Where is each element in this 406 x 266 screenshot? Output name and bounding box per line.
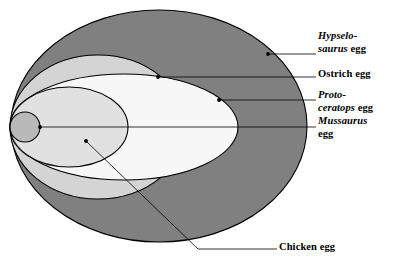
anchor-dot-protoceratops [217, 98, 221, 102]
egg-shape-mussaurus [10, 112, 40, 142]
label-protoceratops-egg: Proto- ceratops egg [318, 89, 373, 114]
anchor-dot-hypselosaurus [266, 52, 270, 56]
figure-canvas: Hypselo- saurus egg Ostrich egg Proto- c… [0, 0, 406, 266]
label-hypselosaurus-line2: saurus [318, 43, 348, 54]
label-protoceratops-suffix: egg [355, 102, 373, 113]
label-ostrich-line1: Ostrich egg [318, 68, 371, 79]
label-hypselosaurus-egg: Hypselo- saurus egg [318, 30, 366, 55]
label-hypselosaurus-suffix: egg [348, 43, 366, 54]
label-mussaurus-line2: egg [318, 128, 333, 139]
label-ostrich-egg: Ostrich egg [318, 68, 371, 81]
anchor-dot-mussaurus [38, 125, 42, 129]
label-chicken-line1: Chicken egg [279, 241, 335, 252]
label-mussaurus-line1: Mussaurus [318, 115, 367, 126]
anchor-dot-chicken [84, 139, 88, 143]
label-hypselosaurus-line1: Hypselo- [318, 30, 357, 41]
label-protoceratops-line1: Proto- [318, 89, 346, 100]
label-mussaurus-egg: Mussaurus egg [318, 115, 367, 140]
anchor-dot-ostrich [156, 75, 160, 79]
label-protoceratops-line2: ceratops [318, 102, 355, 113]
label-chicken-egg: Chicken egg [279, 241, 335, 254]
